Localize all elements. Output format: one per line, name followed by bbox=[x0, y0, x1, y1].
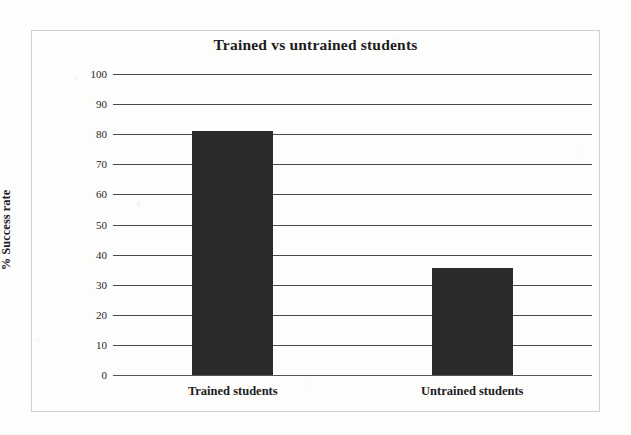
y-tick-label: 0 bbox=[61, 369, 107, 381]
y-tick-label: 70 bbox=[61, 158, 107, 170]
gridline bbox=[113, 194, 592, 195]
x-category-label: Trained students bbox=[133, 384, 333, 399]
x-axis-category-labels: Trained studentsUntrained students bbox=[113, 384, 592, 408]
y-tick-label: 50 bbox=[61, 219, 107, 231]
y-tick-label: 30 bbox=[61, 279, 107, 291]
plot-area bbox=[113, 74, 592, 375]
y-tick-label: 40 bbox=[61, 249, 107, 261]
gridline bbox=[113, 164, 592, 165]
gridline bbox=[113, 285, 592, 286]
scanned-chart-page: Trained vs untrained students % Success … bbox=[0, 0, 631, 435]
chart-title: Trained vs untrained students bbox=[31, 36, 600, 54]
y-tick-label: 60 bbox=[61, 188, 107, 200]
y-tick-label: 100 bbox=[61, 68, 107, 80]
y-tick-label: 80 bbox=[61, 128, 107, 140]
y-axis-title: % Success rate bbox=[0, 170, 14, 290]
gridline bbox=[113, 315, 592, 316]
x-category-label: Untrained students bbox=[372, 384, 572, 399]
gridline bbox=[113, 74, 592, 75]
bar bbox=[432, 268, 513, 375]
gridline bbox=[113, 345, 592, 346]
gridline bbox=[113, 225, 592, 226]
y-tick-label: 20 bbox=[61, 309, 107, 321]
gridline bbox=[113, 255, 592, 256]
y-axis-tick-labels: 0102030405060708090100 bbox=[59, 74, 107, 375]
bar bbox=[192, 131, 273, 375]
x-axis-baseline bbox=[113, 375, 592, 376]
y-tick-label: 90 bbox=[61, 98, 107, 110]
y-tick-label: 10 bbox=[61, 339, 107, 351]
gridline bbox=[113, 134, 592, 135]
gridline bbox=[113, 104, 592, 105]
